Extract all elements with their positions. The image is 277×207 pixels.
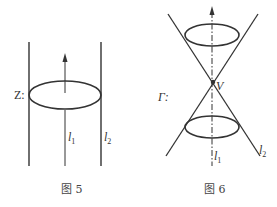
axis-label-l1: l1 <box>214 150 221 165</box>
figure-6-cone <box>166 6 260 166</box>
figure-5-caption: 图 5 <box>61 184 83 195</box>
cone-generator-l2 <box>168 14 260 156</box>
label-subscript: 2 <box>107 137 111 146</box>
figure-5-cylinder <box>29 42 101 166</box>
surface-label-gamma: Γ: <box>158 91 169 103</box>
generator-label-l2: l2 <box>259 144 266 159</box>
vertex-label-v: V <box>216 80 223 92</box>
arrowhead-icon <box>63 53 68 62</box>
vertex-point <box>211 80 214 83</box>
axis-label-l1: l1 <box>68 131 75 146</box>
generator-label-l2: l2 <box>104 131 111 146</box>
arrowhead-icon <box>210 6 215 15</box>
label-subscript: 1 <box>71 137 75 146</box>
label-subscript: 2 <box>262 150 266 159</box>
figure-6-caption: 图 6 <box>204 184 226 195</box>
label-subscript: 1 <box>217 156 221 165</box>
surface-label-z: Z: <box>14 89 25 101</box>
diagram-canvas <box>0 0 277 207</box>
